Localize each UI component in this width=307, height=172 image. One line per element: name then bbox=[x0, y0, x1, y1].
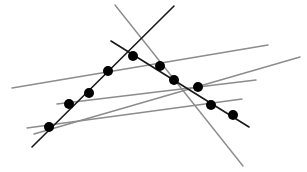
point-3 bbox=[84, 88, 94, 98]
point-6 bbox=[155, 61, 165, 71]
point-1 bbox=[44, 122, 54, 132]
point-5 bbox=[128, 51, 138, 61]
point-2 bbox=[64, 99, 74, 109]
line-point-diagram bbox=[0, 0, 307, 172]
point-8 bbox=[193, 82, 203, 92]
point-4 bbox=[103, 66, 113, 76]
point-9 bbox=[206, 100, 216, 110]
point-10 bbox=[228, 110, 238, 120]
point-7 bbox=[169, 75, 179, 85]
